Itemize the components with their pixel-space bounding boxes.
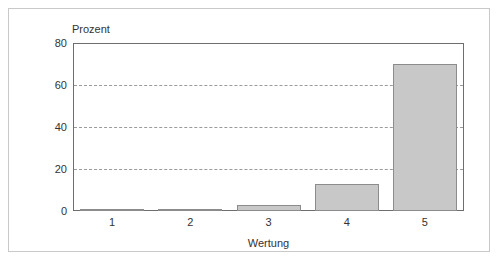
- bar-category-1[interactable]: [80, 209, 144, 211]
- figure-frame: Prozent 0 20 40 60 80 1 2 3 4: [8, 8, 490, 252]
- x-tick-label: 2: [187, 215, 193, 229]
- chart-screenshot: Prozent 0 20 40 60 80 1 2 3 4: [0, 0, 499, 260]
- x-axis-title: Wertung: [73, 237, 464, 250]
- y-tick-label: 0: [23, 206, 67, 217]
- bar-category-3[interactable]: [237, 205, 301, 211]
- bars-layer: [73, 43, 464, 211]
- y-axis-tick-labels: 0 20 40 60 80: [17, 43, 67, 211]
- y-tick-label: 80: [23, 38, 67, 49]
- y-axis-title: Prozent: [72, 23, 110, 36]
- x-tick-label: 4: [344, 215, 350, 229]
- x-tick-label: 5: [422, 215, 428, 229]
- bar-category-2[interactable]: [158, 209, 222, 211]
- x-tick-label: 3: [265, 215, 271, 229]
- bar-category-4[interactable]: [315, 184, 379, 211]
- x-tick-label: 1: [109, 215, 115, 229]
- y-tick-label: 40: [23, 122, 67, 133]
- bar-category-5[interactable]: [393, 64, 457, 211]
- y-tick-label: 20: [23, 164, 67, 175]
- y-tick-label: 60: [23, 80, 67, 91]
- x-axis-tick-labels: 1 2 3 4 5: [73, 215, 464, 231]
